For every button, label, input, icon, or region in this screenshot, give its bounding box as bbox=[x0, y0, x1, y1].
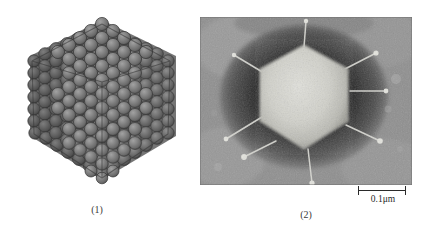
micrograph-panel bbox=[200, 17, 412, 185]
micrograph-field bbox=[200, 17, 412, 185]
scale-bar-label: 0.1μm bbox=[355, 194, 411, 204]
figure-root: (1) bbox=[0, 0, 429, 235]
capsid-model-illustration bbox=[10, 8, 195, 193]
panel-caption-2: (2) bbox=[266, 209, 346, 220]
micrograph-image bbox=[200, 17, 412, 185]
panel-caption-1: (1) bbox=[57, 204, 137, 215]
scale-bar: 0.1μm bbox=[355, 186, 411, 208]
capsid-body bbox=[28, 17, 176, 183]
film-grain bbox=[200, 17, 412, 185]
scale-bar-line bbox=[358, 190, 406, 191]
capsid-model-panel bbox=[10, 8, 195, 193]
